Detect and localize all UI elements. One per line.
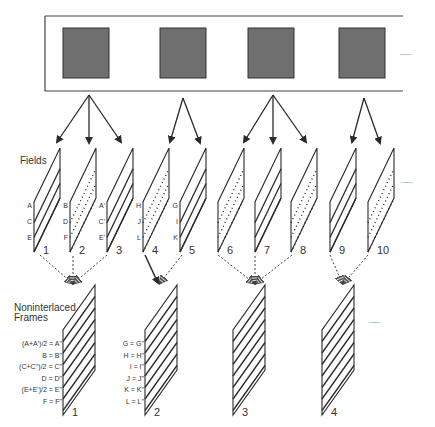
frame-line-equation: (A+A')/2 = A" bbox=[22, 340, 63, 348]
film-strip-continuation: ...... bbox=[400, 49, 412, 56]
field-number: 4 bbox=[152, 244, 158, 256]
field-line-label: K bbox=[173, 234, 178, 241]
field-line-label: I bbox=[176, 218, 178, 225]
fields-row: ACE1BDF2A'C'E'3HJL4GIK5678910 bbox=[27, 148, 394, 256]
frame-line-equation: B = B" bbox=[42, 352, 62, 359]
frame-line-equation: I = I" bbox=[130, 363, 145, 370]
field-line-label: A' bbox=[99, 202, 105, 209]
frame-line-equation: (E+E')/2 = E" bbox=[22, 386, 63, 394]
arrow bbox=[352, 98, 364, 142]
merge-arrow bbox=[40, 255, 72, 283]
field-line-label: L bbox=[137, 234, 141, 241]
field-number: 2 bbox=[79, 244, 85, 256]
frame-3: 3 bbox=[233, 285, 265, 418]
field-line-label: H bbox=[136, 202, 141, 209]
arrow bbox=[57, 95, 89, 142]
frames-continuation: ...... bbox=[369, 317, 381, 324]
field-number: 10 bbox=[377, 244, 389, 256]
merge-arrow bbox=[160, 255, 182, 283]
field-number: 9 bbox=[339, 244, 345, 256]
fields-heading: Fields bbox=[20, 155, 47, 166]
field-line-label: A bbox=[27, 202, 32, 209]
film-frame bbox=[63, 28, 109, 78]
arrow bbox=[170, 98, 183, 142]
field-split-arrows bbox=[57, 95, 380, 143]
field-2: BDF2 bbox=[63, 148, 96, 256]
arrow bbox=[364, 98, 380, 143]
field-line-label: C' bbox=[99, 218, 105, 225]
field-line-label: E bbox=[27, 234, 32, 241]
merge-arrow bbox=[145, 255, 158, 283]
arrow bbox=[244, 95, 273, 142]
field-line-label: F bbox=[64, 234, 68, 241]
field-line-label: C bbox=[27, 218, 32, 225]
frame-line-equation: H = H" bbox=[123, 352, 144, 359]
frame-number: 3 bbox=[242, 406, 248, 418]
frame-number: 1 bbox=[72, 406, 78, 418]
field-number: 8 bbox=[300, 244, 306, 256]
film-frame bbox=[248, 28, 294, 78]
field-line-label: J bbox=[138, 218, 142, 225]
field-number: 5 bbox=[189, 244, 195, 256]
field-7: 7 bbox=[255, 148, 281, 256]
arrow bbox=[89, 95, 121, 142]
field-5: GIK5 bbox=[173, 148, 206, 256]
field-10: 10 bbox=[368, 148, 394, 256]
field-number: 3 bbox=[116, 244, 122, 256]
field-number: 1 bbox=[43, 244, 49, 256]
arrow bbox=[273, 95, 306, 142]
field-line-label: G bbox=[173, 202, 178, 209]
frame-line-equation: L = L" bbox=[126, 398, 145, 405]
field-8: 8 bbox=[291, 148, 317, 256]
field-line-label: B bbox=[63, 202, 68, 209]
pulldown-diagram: ...... Fields ACE1BDF2A'C'E'3HJL4GIK5678… bbox=[0, 0, 435, 427]
field-3: A'C'E'3 bbox=[99, 148, 133, 256]
frame-line-equation: (C+C'')/2 = C" bbox=[19, 363, 62, 371]
field-merge-arrows bbox=[40, 255, 368, 283]
merge-arrow bbox=[256, 255, 292, 283]
film-strip: ...... bbox=[45, 16, 412, 91]
frame-line-equation: J = J" bbox=[127, 375, 145, 382]
merge-arrow bbox=[344, 255, 368, 283]
film-frame bbox=[339, 28, 385, 78]
film-frame bbox=[160, 28, 206, 78]
frame-number: 2 bbox=[154, 406, 160, 418]
field-number: 7 bbox=[264, 244, 270, 256]
frame-4: 4 bbox=[322, 285, 354, 418]
frame-line-equation: D = D" bbox=[41, 375, 62, 382]
field-4: HJL4 bbox=[136, 148, 169, 256]
field-number: 6 bbox=[227, 244, 233, 256]
merge-arrow bbox=[74, 255, 107, 283]
field-6: 6 bbox=[218, 148, 244, 256]
frames-heading-line2: Frames bbox=[14, 312, 48, 323]
frame-line-equation: F = F" bbox=[43, 398, 63, 405]
arrow bbox=[183, 98, 200, 143]
frame-number: 4 bbox=[331, 406, 337, 418]
frame-line-equation: G = G" bbox=[123, 340, 145, 347]
merge-arrow bbox=[218, 255, 254, 283]
field-line-label: E' bbox=[99, 234, 105, 241]
field-line-label: D bbox=[63, 218, 68, 225]
field-9: 9 bbox=[330, 148, 356, 256]
frame-line-equation: K = K" bbox=[124, 386, 144, 393]
fields-continuation: ...... bbox=[401, 177, 413, 184]
frame-2: G = G"H = H"I = I"J = J"K = K"L = L"2 bbox=[123, 285, 177, 418]
merge-arrow bbox=[330, 255, 342, 283]
